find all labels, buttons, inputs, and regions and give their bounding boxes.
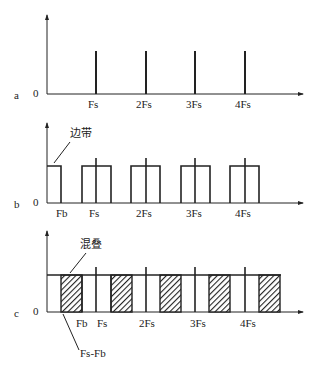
tick-3fs: 3Fs [186,99,202,110]
panel-a-label: a [14,90,19,101]
carrier-lines [96,158,245,203]
tick-fs: Fs [89,208,99,219]
spectral-lines [96,51,245,94]
aliasing-annotation: 混叠 [80,239,102,250]
tick-2fs: 2Fs [136,208,152,219]
aliased-regions [61,275,280,312]
fs-fb-annotation: Fs-Fb [80,348,106,359]
origin-label: 0 [33,197,39,208]
bands [47,166,259,203]
tick-fs: Fs [97,318,107,329]
tick-2fs: 2Fs [136,99,152,110]
panel-c-label: c [14,308,19,319]
origin-label: 0 [33,88,39,99]
panel-b-label: b [14,199,20,210]
tick-4fs: 4Fs [235,208,251,219]
tick-4fs: 4Fs [240,318,256,329]
tick-fb: Fb [56,208,68,219]
tick-2fs: 2Fs [139,318,155,329]
sideband-annotation: 边带 [70,128,92,139]
origin-label: 0 [33,306,39,317]
spectrum-diagram [0,0,318,374]
tick-fb: Fb [76,318,88,329]
tick-4fs: 4Fs [235,99,251,110]
panel-a [47,15,303,94]
sideband-pointer [54,142,70,163]
tick-3fs: 3Fs [190,318,206,329]
tick-3fs: 3Fs [186,208,202,219]
aliasing-pointer [70,253,86,273]
tick-fs: Fs [88,99,98,110]
